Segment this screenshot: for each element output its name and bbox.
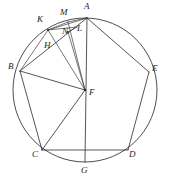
point-label-c: C — [32, 150, 38, 159]
segment-fc — [42, 90, 85, 150]
segment-bk — [20, 30, 48, 71]
point-label-n: N — [62, 27, 68, 36]
vertex-dot-f — [84, 89, 87, 92]
point-label-l: L — [77, 24, 82, 33]
segment-fn — [68, 32, 85, 90]
point-label-a: A — [84, 2, 90, 11]
point-label-g: G — [81, 166, 88, 175]
point-label-m: M — [60, 8, 68, 17]
figure-canvas — [0, 0, 171, 186]
geometry-figure: A B C D E F G H K L M N — [0, 0, 171, 186]
point-label-f: F — [89, 88, 95, 97]
vertex-dot-k — [47, 29, 49, 31]
point-label-b: B — [8, 62, 14, 71]
point-label-d: D — [129, 150, 136, 159]
point-label-h: H — [44, 41, 51, 50]
point-label-e: E — [152, 64, 158, 73]
point-label-k: K — [37, 15, 43, 24]
